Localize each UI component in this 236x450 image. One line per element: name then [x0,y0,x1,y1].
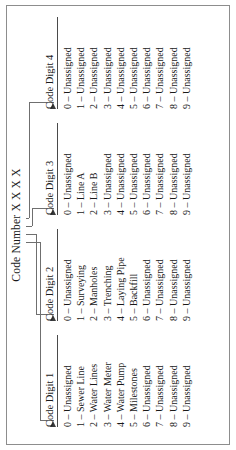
code-digit-3-underline [57,123,58,215]
list-item: 8 – Unassigned [167,225,180,321]
list-item: 9 – Unassigned [180,225,193,321]
list-item: 7 – Unassigned [153,225,166,321]
list-item: 8 – Unassigned [167,13,180,109]
connector-spine-stem-d4 [26,218,29,219]
code-digit-2-underline [57,229,58,321]
connector-spine-stem-d3 [26,226,32,227]
connector-branch-4-horizontal [29,103,30,218]
figure-page: Code Number X X X X [0,0,236,450]
list-item: 7 – Unassigned [153,119,166,215]
page-border-bottom [6,444,230,445]
code-digit-4-header: Code Digit 4 [44,13,57,109]
list-item: 5 – Unassigned [127,119,140,215]
code-digit-3-header: Code Digit 3 [44,119,57,215]
code-digit-2-header: Code Digit 2 [44,225,57,321]
list-item: 1 – Surveying [74,225,87,321]
list-item: 2 – Line B [87,119,100,215]
list-item: 1 – Line A [74,119,87,215]
code-number-breakdown-diagram: Code Number X X X X [6,7,230,443]
list-item: 1 – Unassigned [74,13,87,109]
list-item: 7 – Unassigned [153,13,166,109]
list-item: 0 – Unassigned [61,119,74,215]
rotated-figure-canvas: Code Number X X X X [6,7,230,443]
connector-spine-stem-d1 [26,242,40,243]
list-item: 6 – Unassigned [140,13,153,109]
code-digit-1-header: Code Digit 1 [44,331,57,427]
diagram-title: Code Number X X X X [10,7,22,443]
list-item: 1 – Sewer Line [74,331,87,427]
code-digit-1-column: Code Digit 1 0 – Unassigned 1 – Sewer Li… [44,331,193,427]
list-item: 3 – Unassigned [101,119,114,215]
list-item: 3 – Unassigned [101,13,114,109]
list-item: 9 – Unassigned [180,13,193,109]
connector-branch-2-horizontal [36,234,37,315]
connector-branch-1-horizontal [40,242,41,421]
code-digit-4-underline [57,17,58,109]
page-border-top [6,5,230,6]
list-item: 8 – Unassigned [167,119,180,215]
code-digit-2-column: Code Digit 2 0 – Unassigned 1 – Surveyin… [44,225,193,321]
list-item: 5 – Backfill [127,225,140,321]
list-item: 5 – Milestones [127,331,140,427]
list-item: 0 – Unassigned [61,13,74,109]
code-digit-4-column: Code Digit 4 0 – Unassigned 1 – Unassign… [44,13,193,109]
code-digit-1-underline [57,335,58,427]
list-item: 9 – Unassigned [180,331,193,427]
list-item: 0 – Unassigned [61,331,74,427]
code-digit-3-column: Code Digit 3 0 – Unassigned 1 – Line A 2… [44,119,193,215]
list-item: 4 – Unassigned [114,13,127,109]
connector-branch-3-horizontal [32,209,33,226]
list-item: 9 – Unassigned [180,119,193,215]
list-item: 3 – Water Meter [101,331,114,427]
list-item: 8 – Unassigned [167,331,180,427]
list-item: 2 – Water Lines [87,331,100,427]
list-item: 6 – Unassigned [140,225,153,321]
list-item: 2 – Unassigned [87,13,100,109]
list-item: 6 – Unassigned [140,331,153,427]
list-item: 5 – Unassigned [127,13,140,109]
list-item: 7 – Unassigned [153,331,166,427]
connector-spine-stem-d2 [26,234,36,235]
list-item: 4 – Unassigned [114,119,127,215]
list-item: 0 – Unassigned [61,225,74,321]
list-item: 3 – Trenching [101,225,114,321]
list-item: 6 – Unassigned [140,119,153,215]
list-item: 2 – Manholes [87,225,100,321]
list-item: 4 – Laying Pipe [114,225,127,321]
list-item: 4 – Water Pump [114,331,127,427]
